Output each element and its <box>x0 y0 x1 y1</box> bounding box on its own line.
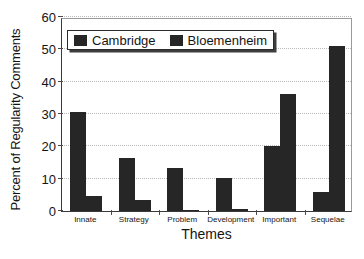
x-axis-title: Themes <box>61 226 352 242</box>
y-tick-label: 40 <box>32 76 56 89</box>
y-tick-label: 30 <box>32 108 56 121</box>
x-tick-label-sequelae: Sequelae <box>304 215 353 224</box>
bar-cambridge-sequelae <box>313 192 329 211</box>
bar-bloemenheim-sequelae <box>329 46 345 211</box>
y-tick-label: 60 <box>32 11 56 24</box>
legend-swatch-bloemenheim <box>170 35 183 46</box>
gridline <box>62 178 351 179</box>
legend-entry-cambridge: Cambridge <box>74 34 156 47</box>
bar-bloemenheim-innate <box>86 196 102 211</box>
legend-swatch-cambridge <box>74 35 87 46</box>
y-tick-label: 10 <box>32 173 56 186</box>
bar-bloemenheim-problem <box>183 210 199 211</box>
bar-cambridge-problem <box>167 168 183 211</box>
y-tick-label: 50 <box>32 43 56 56</box>
y-tick-mark <box>58 113 63 114</box>
x-tick-label-problem: Problem <box>158 215 207 224</box>
bar-bloemenheim-development <box>232 209 248 211</box>
y-axis-tick-labels: 0102030405060 <box>32 0 56 259</box>
bar-bloemenheim-important <box>280 94 296 211</box>
y-axis-title: Percent of Regularity Comments <box>8 20 23 220</box>
gridline <box>62 145 351 146</box>
x-tick-label-innate: Innate <box>61 215 110 224</box>
y-tick-mark <box>58 16 63 17</box>
gridline <box>62 16 351 17</box>
chart-legend: CambridgeBloemenheim <box>67 30 274 50</box>
x-tick-label-strategy: Strategy <box>110 215 159 224</box>
bar-bloemenheim-strategy <box>135 200 151 211</box>
y-tick-mark <box>58 178 63 179</box>
gridline <box>62 113 351 114</box>
y-tick-label: 20 <box>32 140 56 153</box>
bar-cambridge-important <box>264 146 280 211</box>
gridline <box>62 81 351 82</box>
legend-label: Bloemenheim <box>188 34 268 47</box>
y-tick-mark <box>58 145 63 146</box>
bar-cambridge-strategy <box>119 158 135 211</box>
legend-entry-bloemenheim: Bloemenheim <box>170 34 268 47</box>
y-tick-label: 0 <box>32 205 56 218</box>
bar-cambridge-development <box>216 178 232 211</box>
legend-label: Cambridge <box>92 34 156 47</box>
x-tick-label-development: Development <box>207 215 256 224</box>
x-tick-label-important: Important <box>255 215 304 224</box>
y-tick-mark <box>58 48 63 49</box>
y-tick-mark <box>58 210 63 211</box>
y-tick-mark <box>58 81 63 82</box>
bar-cambridge-innate <box>70 112 86 211</box>
bar-chart-figure: Percent of Regularity Comments 010203040… <box>0 0 364 259</box>
